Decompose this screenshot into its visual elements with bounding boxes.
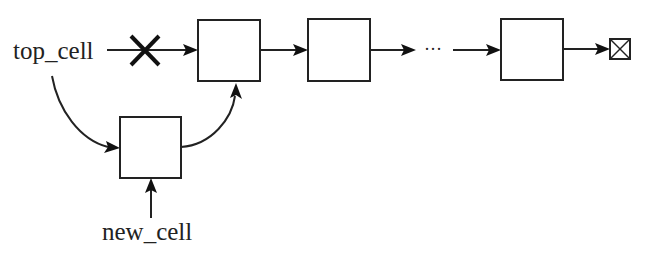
list-node-2 [308,19,370,81]
new-cell-label: new_cell [102,218,192,245]
arrow-node1-node2 [260,44,308,56]
ellipsis: ··· [424,39,442,59]
arrow-newcell-newnode [145,178,157,218]
top-cell-label: top_cell [13,37,94,64]
arrow-noden-null [563,43,610,55]
arrow-node2-ellipsis [370,44,416,56]
list-node-last [501,19,563,80]
new-list-node [120,117,181,178]
null-terminator-icon [610,39,630,59]
list-node-1 [198,20,260,81]
linked-list-diagram: top_cell ··· [0,0,645,261]
arrow-newnode-node1 [181,83,242,147]
arrow-ellipsis-noden [453,44,501,56]
removed-link-arrow [107,44,198,56]
arrow-topcell-newnode [52,76,120,153]
